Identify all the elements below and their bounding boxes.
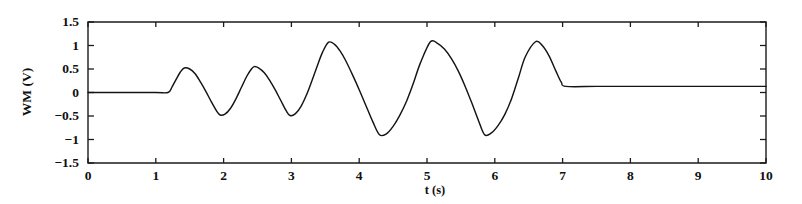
x-tick-label: 3 — [288, 168, 295, 183]
x-tick-label: 2 — [220, 168, 227, 183]
waveform-chart: 012345678910 −1.5−1−0.500.511.5 t (s) WM… — [0, 0, 802, 204]
x-tick-label: 10 — [759, 168, 773, 183]
y-tick-label: 0 — [72, 85, 79, 100]
y-tick-label: −1.5 — [54, 155, 79, 170]
y-tick-label: −0.5 — [54, 108, 79, 123]
x-tick-label: 9 — [695, 168, 702, 183]
y-axis-title: WM (V) — [19, 68, 34, 116]
x-tick-label: 8 — [627, 168, 634, 183]
y-axis-ticks — [88, 22, 766, 163]
x-tick-label: 1 — [152, 168, 159, 183]
x-tick-label: 6 — [491, 168, 498, 183]
data-curve — [88, 40, 766, 135]
data-series-layer — [88, 40, 766, 135]
x-tick-label: 7 — [559, 168, 566, 183]
x-tick-label: 4 — [356, 168, 363, 183]
x-tick-label: 0 — [85, 168, 92, 183]
y-tick-label: −1 — [65, 132, 80, 147]
y-tick-label: 1 — [72, 38, 79, 53]
y-tick-label: 1.5 — [62, 14, 79, 29]
x-axis-tick-labels: 012345678910 — [85, 168, 773, 183]
figure-container: 012345678910 −1.5−1−0.500.511.5 t (s) WM… — [0, 0, 802, 204]
x-tick-label: 5 — [424, 168, 431, 183]
y-axis-tick-labels: −1.5−1−0.500.511.5 — [54, 14, 79, 170]
x-axis-title: t (s) — [425, 183, 445, 197]
plot-frame — [88, 22, 766, 163]
x-axis-ticks — [88, 22, 766, 163]
y-tick-label: 0.5 — [62, 61, 79, 76]
